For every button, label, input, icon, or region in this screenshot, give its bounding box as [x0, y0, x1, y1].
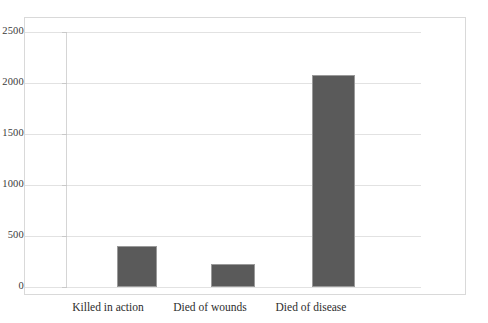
bar-died-of-disease[interactable] — [312, 75, 355, 287]
bar-chart-figure: 2500 2000 1500 1000 500 0 Killed in acti… — [0, 0, 488, 323]
x-axis-category-labels: Killed in action Died of wounds Died of … — [24, 300, 466, 320]
bar-killed-in-action[interactable] — [117, 246, 157, 287]
bar-died-of-wounds[interactable] — [211, 264, 255, 287]
y-tick-label-2000: 2000 — [0, 77, 24, 88]
y-tick-label-1500: 1500 — [0, 128, 24, 139]
x-label-died-of-disease: Died of disease — [251, 300, 371, 314]
gridline-0-baseline — [25, 287, 421, 288]
y-tick-label-0: 0 — [0, 281, 24, 292]
y-tick-label-1000: 1000 — [0, 179, 24, 190]
chart-frame — [24, 17, 466, 295]
y-tick-label-2500: 2500 — [0, 26, 24, 37]
bars-group — [67, 32, 463, 287]
y-tick-label-500: 500 — [0, 230, 24, 241]
y-tick-mark-0 — [62, 287, 67, 288]
